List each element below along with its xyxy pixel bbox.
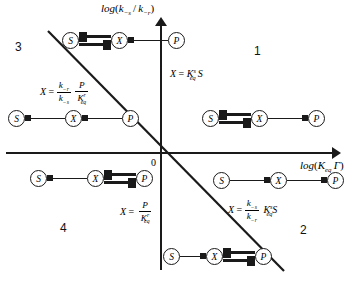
quadrant-label-4: 4 [60, 222, 67, 234]
quadrant-label-3: 3 [15, 41, 22, 53]
species-node-x: X [111, 32, 128, 49]
equation-upper-left: X = k−rk−s PKreq [40, 80, 88, 106]
arrow-thin-left [128, 32, 168, 49]
species-node-x: X [251, 110, 268, 127]
reaction-diagram-top: S X P [62, 32, 185, 49]
species-node-p: P [168, 32, 185, 49]
species-node-p: P [327, 172, 344, 189]
arrow-pair-bold-reversible [79, 32, 111, 49]
origin-label: 0 [151, 158, 156, 168]
species-node-p: P [308, 110, 325, 127]
species-node-s: S [163, 248, 180, 265]
arrow-pair-bold-reversible [219, 110, 251, 127]
equation-upper-right: X = Kseq S [170, 68, 203, 82]
species-node-x: X [206, 248, 223, 265]
species-node-p: P [122, 110, 139, 127]
species-node-x: X [270, 172, 287, 189]
reaction-diagram-bottom: S X P [163, 248, 272, 265]
arrow-thin-left [82, 110, 122, 127]
arrow-thin-right [230, 172, 270, 189]
reaction-diagram-lower-left: S X P [30, 170, 153, 187]
diagonal-separatrix-line [48, 31, 284, 271]
reaction-diagram-mid-left: S X P [8, 110, 139, 127]
y-axis-label: log(k−s / k−r) [101, 3, 154, 17]
arrow-thin-right [180, 248, 206, 265]
species-node-x: X [87, 170, 104, 187]
species-node-s: S [213, 172, 230, 189]
figure-canvas: log(k−s / k−r) log(Keq Γ) 0 3 1 4 2 X = … [0, 0, 363, 291]
equation-lower-right: X = k−sk−r KseqS [228, 198, 277, 224]
reaction-diagram-mid-right: S X P [202, 110, 325, 127]
species-node-x: X [65, 110, 82, 127]
species-node-s: S [62, 32, 79, 49]
arrow-thin-right [268, 110, 308, 127]
arrow-thin-left [47, 170, 87, 187]
arrow-thin-right [287, 172, 327, 189]
arrow-pair-bold-reversible [223, 248, 255, 265]
species-node-s: S [202, 110, 219, 127]
species-node-s: S [30, 170, 47, 187]
species-node-s: S [8, 110, 25, 127]
quadrant-label-1: 1 [254, 45, 261, 57]
x-axis-arrowhead-icon [332, 147, 341, 159]
species-node-p: P [255, 248, 272, 265]
y-axis-arrowhead-icon [155, 17, 167, 26]
species-node-p: P [136, 170, 153, 187]
arrow-pair-bold-reversible [104, 170, 136, 187]
arrow-thin-left [25, 110, 65, 127]
equation-lower-left: X = PKreq [120, 200, 151, 225]
reaction-diagram-lower-right: S X P [213, 172, 344, 189]
quadrant-label-2: 2 [300, 224, 307, 236]
